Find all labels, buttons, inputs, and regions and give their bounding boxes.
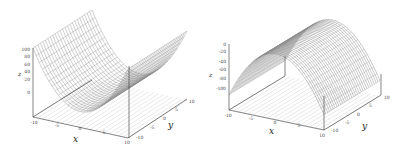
left-y-tick: 10 [189,99,195,104]
right-y-tick: 10 [384,95,390,100]
right-y-label: y [361,121,368,131]
right-y-tick: -5 [345,120,350,125]
right-z-tick: 0 [223,42,226,47]
left-y-tick: -5 [150,125,155,130]
right-surface-plot: 0 -20 -40 -60 -80 -100 z -10 -5 0 5 10 x… [200,0,399,150]
left-x-label: x [73,134,78,144]
left-z-tick: 0 [27,90,30,95]
left-x-tick: 0 [79,126,82,131]
right-y-tick: 0 [357,112,360,117]
left-z-tick: 20 [24,77,30,82]
left-x-tick: -5 [55,123,60,128]
left-z-tick: 60 [24,62,30,67]
right-x-tick: -5 [249,116,254,121]
left-y-tick: 0 [163,116,166,121]
figure: 100 80 60 40 20 0 z -10 -5 0 5 10 x -10 … [0,0,399,150]
left-x-tick: -10 [30,120,37,125]
left-z-tick: 100 [21,47,30,52]
right-z-tick: -80 [219,76,226,81]
right-y-tick: -10 [331,128,338,133]
left-contour-projection [33,79,187,138]
right-surface-mesh [229,20,380,115]
right-z-tick: -60 [219,67,226,72]
left-surface-mesh [33,10,187,112]
right-z-tick: -40 [219,59,226,64]
right-z-tick: -100 [216,86,226,91]
left-x-tick: 5 [103,130,106,135]
right-x-tick: 5 [298,123,301,128]
right-y-tick: 5 [369,103,372,108]
right-contour-projection [229,76,380,130]
left-y-label: y [167,120,174,130]
left-z-tick: 40 [24,69,30,74]
right-z-label: z [208,71,213,78]
right-x-tick: -10 [224,113,231,118]
left-surface-plot: 100 80 60 40 20 0 z -10 -5 0 5 10 x -10 … [0,0,200,150]
left-z-tick: 80 [24,54,30,59]
right-x-tick: 10 [319,133,325,138]
right-z-tick: -20 [219,49,226,54]
left-z-label: z [17,70,22,77]
left-y-tick: -10 [136,135,143,140]
left-x-tick: 10 [124,140,130,145]
left-y-tick: 5 [175,107,178,112]
right-x-tick: 0 [274,120,277,125]
right-x-label: x [269,126,274,136]
